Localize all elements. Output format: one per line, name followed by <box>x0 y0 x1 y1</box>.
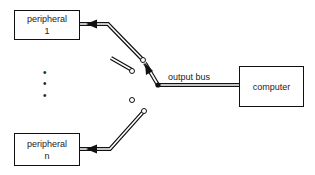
switch-arm <box>141 58 159 86</box>
junction-dot-icon <box>155 82 160 87</box>
ellipsis-dot: • <box>43 90 47 101</box>
peripheral-1-label: peripheral <box>27 13 67 25</box>
switch-contact-middle <box>111 58 135 74</box>
peripheral-1-box: peripheral 1 <box>14 10 80 40</box>
switch-contact-empty <box>130 98 135 103</box>
peripheral-n-label: peripheral <box>27 138 67 150</box>
peripheral-n-box: peripheral n <box>14 133 80 166</box>
computer-label: computer <box>253 81 291 93</box>
arrow-to-peripheral-1-icon <box>86 20 97 29</box>
line-to-peripheral-n <box>80 109 147 154</box>
arrow-to-peripheral-n-icon <box>86 145 97 154</box>
peripheral-n-number: n <box>44 150 49 162</box>
ellipsis-dot: • <box>43 78 47 89</box>
output-bus-label: output bus <box>168 72 210 82</box>
ellipsis-dot: • <box>43 67 47 78</box>
peripheral-1-number: 1 <box>44 25 49 37</box>
computer-box: computer <box>239 66 304 107</box>
line-to-peripheral-1 <box>80 20 143 61</box>
